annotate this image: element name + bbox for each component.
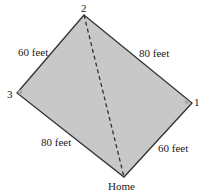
- diamond-figure: [0, 0, 202, 193]
- edge-label-3-2: 60 feet: [18, 46, 48, 58]
- diagram-canvas: 2 3 1 Home 60 feet 80 feet 80 feet 60 fe…: [0, 0, 202, 193]
- vertex-label-home: Home: [108, 180, 135, 192]
- edge-label-home-1: 60 feet: [158, 142, 188, 154]
- vertex-label-1: 1: [194, 96, 200, 108]
- edge-label-2-1: 80 feet: [139, 47, 169, 59]
- vertex-label-2: 2: [81, 2, 87, 14]
- vertex-label-3: 3: [7, 88, 13, 100]
- edge-label-3-home: 80 feet: [41, 136, 71, 148]
